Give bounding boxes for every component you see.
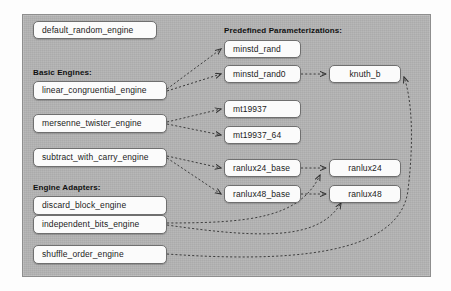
node-subtract-with-carry-engine[interactable]: subtract_with_carry_engine: [33, 148, 167, 167]
node-mersenne-twister-engine[interactable]: mersenne_twister_engine: [33, 114, 167, 133]
node-ranlux24[interactable]: ranlux24: [329, 159, 401, 177]
node-default-random-engine[interactable]: default_random_engine: [33, 21, 157, 39]
node-discard-block-engine[interactable]: discard_block_engine: [33, 196, 167, 215]
node-independent-bits-engine[interactable]: independent_bits_engine: [33, 215, 167, 234]
node-ranlux48[interactable]: ranlux48: [329, 185, 401, 203]
node-linear-congruential-engine[interactable]: linear_congruential_engine: [33, 81, 167, 100]
node-mt19937-64[interactable]: mt19937_64: [224, 126, 301, 144]
node-minstd-rand[interactable]: minstd_rand: [224, 40, 301, 58]
node-mt19937[interactable]: mt19937: [224, 100, 301, 118]
node-knuth-b[interactable]: knuth_b: [329, 65, 401, 83]
node-minstd-rand0[interactable]: minstd_rand0: [224, 65, 301, 83]
label-engine-adapters: Engine Adapters:: [33, 183, 101, 192]
node-shuffle-order-engine[interactable]: shuffle_order_engine: [33, 245, 167, 264]
node-ranlux48-base[interactable]: ranlux48_base: [224, 185, 301, 203]
diagram-page: Basic Engines: Engine Adapters: Predefin…: [0, 0, 451, 291]
label-predefined-parameterizations: Predefined Parameterizations:: [224, 26, 342, 35]
node-ranlux24-base[interactable]: ranlux24_base: [224, 159, 301, 177]
label-basic-engines: Basic Engines:: [33, 68, 92, 77]
